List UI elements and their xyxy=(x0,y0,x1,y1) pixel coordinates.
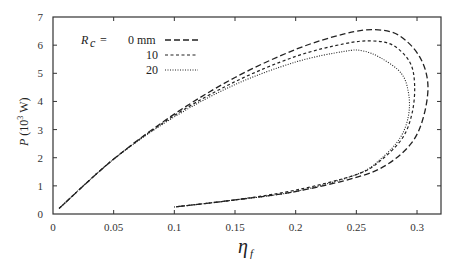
x-axis-label-subscript: f xyxy=(250,247,255,259)
y-axis-label: P(103 W) xyxy=(16,98,31,147)
y-tick-label: 0 xyxy=(38,208,44,220)
svg-text:P(103 W): P(103 W) xyxy=(16,98,31,147)
chart: 00.050.10.150.20.250.3 01234567 R c = 0 … xyxy=(0,0,460,262)
y-axis-label-unit-end: W) xyxy=(17,98,31,116)
legend-equals: = xyxy=(100,33,107,47)
x-tick-label: 0.15 xyxy=(225,221,245,233)
x-axis-label-eta: η xyxy=(238,235,248,258)
x-tick-label: 0.3 xyxy=(410,221,424,233)
series-group xyxy=(59,30,428,209)
y-tick-label: 2 xyxy=(38,152,44,164)
y-tick-label: 7 xyxy=(38,11,44,23)
y-tick-label: 1 xyxy=(38,180,44,192)
legend-subscript: c xyxy=(90,36,96,50)
x-tick-label: 0.2 xyxy=(289,221,303,233)
legend-label-0mm: 0 mm xyxy=(128,33,156,47)
legend: R c = 0 mm 10 20 xyxy=(80,33,198,77)
x-tick-label: 0.05 xyxy=(104,221,124,233)
series-line-2 xyxy=(59,50,409,208)
y-axis-label-unit: (10 xyxy=(17,120,31,136)
y-tick-label: 6 xyxy=(38,39,44,51)
series-line-0 xyxy=(59,30,428,209)
y-axis-ticks: 01234567 xyxy=(38,11,442,220)
legend-label-10: 10 xyxy=(146,48,158,62)
y-axis-label-p: P xyxy=(17,138,31,147)
legend-label-20: 20 xyxy=(146,63,158,77)
x-tick-label: 0.25 xyxy=(347,221,367,233)
y-tick-label: 5 xyxy=(38,67,44,79)
series-line-1 xyxy=(59,41,415,209)
x-axis-label: η f xyxy=(238,235,255,259)
x-axis-ticks: 00.050.10.150.20.250.3 xyxy=(50,17,424,233)
y-tick-label: 3 xyxy=(38,124,44,136)
plot-frame xyxy=(53,17,441,214)
x-tick-label: 0.1 xyxy=(167,221,181,233)
legend-symbol: R xyxy=(80,33,89,47)
y-tick-label: 4 xyxy=(38,95,44,107)
x-tick-label: 0 xyxy=(50,221,56,233)
